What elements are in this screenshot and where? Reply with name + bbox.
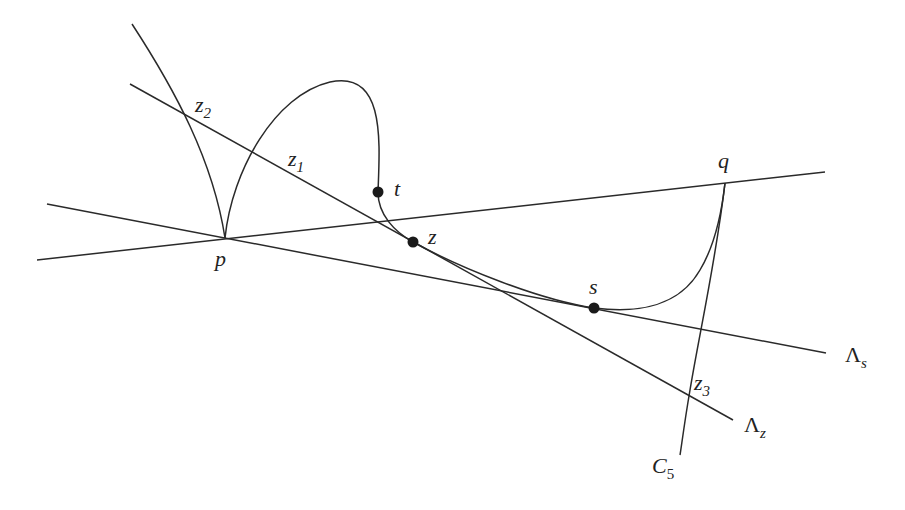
label-z2: z2 [194, 92, 212, 121]
label-z3: z3 [693, 370, 710, 399]
label-c5: C5 [652, 453, 674, 482]
label-lambda-z: Λz [744, 412, 766, 441]
point-z [408, 237, 419, 248]
point-s [589, 303, 600, 314]
curve-c5-left-branch [132, 24, 225, 238]
point-t [373, 187, 384, 198]
label-s: s [589, 274, 598, 299]
diagram-canvas: p q t z s z1 z2 z3 Λs Λz C5 [0, 0, 905, 510]
label-lambda-s: Λs [845, 342, 867, 371]
curve-loop [225, 81, 725, 310]
label-z1: z1 [287, 146, 304, 175]
label-t: t [394, 176, 401, 201]
label-q: q [718, 148, 729, 173]
label-z: z [427, 224, 437, 249]
label-p: p [213, 246, 226, 271]
